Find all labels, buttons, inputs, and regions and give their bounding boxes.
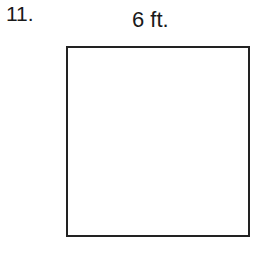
side-length-label: 6 ft.: [132, 7, 169, 33]
problem-number: 11.: [6, 2, 34, 26]
square-shape: [66, 46, 250, 237]
